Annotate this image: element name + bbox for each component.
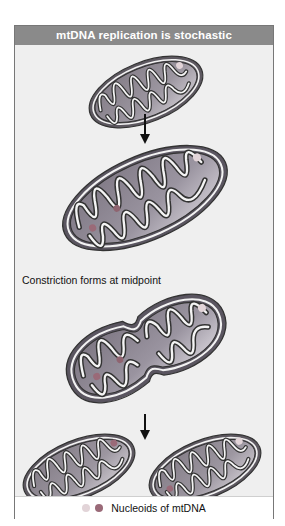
legend-swatch-light-nucleoid bbox=[82, 504, 90, 512]
legend-label: Nucleoids of mtDNA bbox=[111, 502, 206, 514]
mitochondrion-grown bbox=[53, 138, 237, 258]
constriction-label: Constriction forms at midpoint bbox=[22, 274, 161, 286]
figure-title: mtDNA replication is stochastic bbox=[15, 26, 273, 45]
mitochondrion-constricted bbox=[55, 288, 237, 406]
figure-panel: mtDNA replication is stochastic bbox=[14, 25, 274, 519]
legend-swatch-dark-nucleoid bbox=[95, 504, 103, 512]
legend: Nucleoids of mtDNA bbox=[15, 496, 273, 519]
